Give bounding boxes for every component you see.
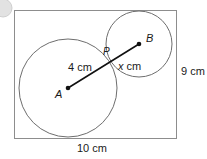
segment-pb-length-label: x cm	[118, 61, 141, 72]
point-a-dot	[66, 86, 71, 91]
rectangle-width-label: 10 cm	[77, 143, 107, 154]
geometry-figure: A B P 4 cm x cm 9 cm 10 cm	[0, 0, 207, 159]
point-b-label: B	[146, 33, 153, 44]
point-b-dot	[137, 42, 142, 47]
point-a-label: A	[55, 89, 62, 100]
rectangle-height-label: 9 cm	[181, 66, 205, 77]
segment-pb-unit: cm	[124, 60, 142, 72]
figure-canvas	[0, 0, 207, 159]
segment-ap-length-label: 4 cm	[68, 62, 92, 73]
point-p-label: P	[103, 47, 110, 57]
corner-mark-icon	[0, 0, 12, 17]
